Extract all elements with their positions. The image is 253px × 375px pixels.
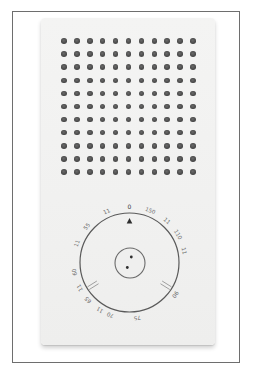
dial-marker-ticks	[88, 281, 172, 290]
pointer-triangle-icon	[127, 218, 133, 224]
dial-scale-label: 11	[95, 306, 104, 315]
dial-scale-label: 11	[75, 283, 84, 292]
dial-scale-label: 70	[106, 311, 115, 319]
tuning-knob[interactable]	[115, 248, 145, 278]
knob-dot	[130, 256, 133, 259]
dial-scale-label: 55	[82, 222, 91, 232]
dial-scale-label: 11	[102, 207, 111, 215]
knob-dot	[126, 266, 129, 269]
dial-scale-label: 90	[171, 290, 180, 300]
dial-scale-label: 11	[162, 216, 171, 225]
dial-scale-label: 150	[144, 206, 156, 216]
dial-scale-label: 11	[181, 247, 188, 255]
dial-scale-label: 60	[71, 268, 78, 276]
dial-scale-label: 11	[73, 239, 81, 248]
dial-scale-label: 110	[173, 228, 184, 241]
dial-scale-label: 65	[83, 295, 92, 305]
dial-scale-label: 75	[133, 314, 141, 321]
dial-scale-label: 0	[128, 203, 132, 210]
tuning-dial: 0150111101190757011651160115511	[0, 0, 253, 375]
